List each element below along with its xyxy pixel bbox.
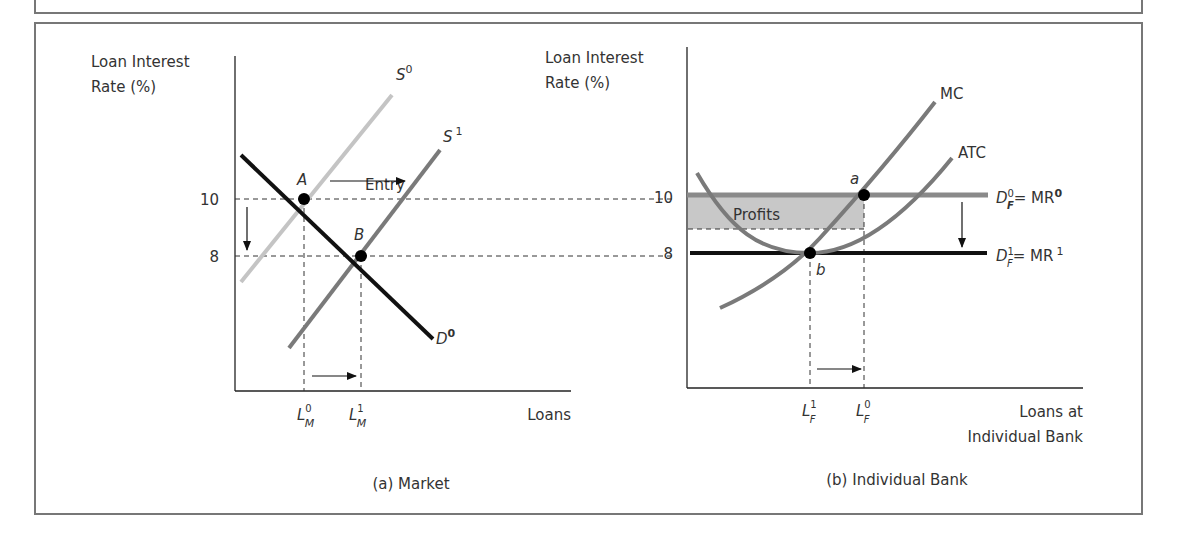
entry-label: Entry bbox=[365, 176, 405, 194]
market-ylabel-line1: Loan Interest bbox=[91, 53, 190, 71]
bank-caption: (b) Individual Bank bbox=[826, 471, 968, 489]
lm0-label: L0M bbox=[297, 403, 315, 430]
market-caption: (a) Market bbox=[372, 475, 449, 493]
equilibrium-point-b bbox=[355, 250, 367, 262]
bank-xlabel-line1: Loans at bbox=[1019, 403, 1083, 421]
bank-tick-8: 8 bbox=[663, 245, 673, 263]
mr0-label: D0F= MR0 bbox=[996, 187, 1062, 211]
bank-ylabel-line2: Rate (%) bbox=[545, 74, 610, 92]
market-tick-10: 10 bbox=[200, 191, 219, 209]
panel-market: Loan Interest Rate (%) 10 8 A B S0 S1 D0… bbox=[91, 53, 672, 493]
mr1-label: D1F= MR1 bbox=[996, 245, 1063, 269]
bank-xlabel-line2: Individual Bank bbox=[968, 428, 1084, 446]
bank-point-b-label: b bbox=[816, 261, 826, 279]
lf0-label: L0F bbox=[856, 399, 871, 425]
equilibrium-point-a bbox=[298, 193, 310, 205]
atc-label: ATC bbox=[958, 144, 986, 162]
point-a-bank bbox=[858, 189, 870, 201]
lf1-label: L1F bbox=[802, 399, 817, 425]
market-xlabel: Loans bbox=[527, 406, 571, 424]
mc-label: MC bbox=[940, 85, 963, 103]
market-ylabel-line2: Rate (%) bbox=[91, 78, 156, 96]
panel-individual-bank: Loan Interest Rate (%) 10 8 Profits a b … bbox=[545, 47, 1083, 489]
bank-ylabel-line1: Loan Interest bbox=[545, 49, 644, 67]
profits-label: Profits bbox=[733, 206, 780, 224]
d0-label: D0 bbox=[436, 327, 456, 348]
figure-canvas: Loan Interest Rate (%) 10 8 A B S0 S1 D0… bbox=[0, 0, 1181, 541]
point-b-bank bbox=[804, 247, 816, 259]
s0-label: S0 bbox=[396, 63, 413, 84]
lm1-label: L1M bbox=[349, 403, 367, 430]
s1-label: S1 bbox=[443, 125, 463, 146]
bank-point-a-label: a bbox=[850, 170, 859, 188]
point-a-label: A bbox=[296, 171, 307, 189]
bank-tick-10: 10 bbox=[654, 189, 673, 207]
market-tick-8: 8 bbox=[209, 248, 219, 266]
point-b-label: B bbox=[354, 226, 364, 244]
